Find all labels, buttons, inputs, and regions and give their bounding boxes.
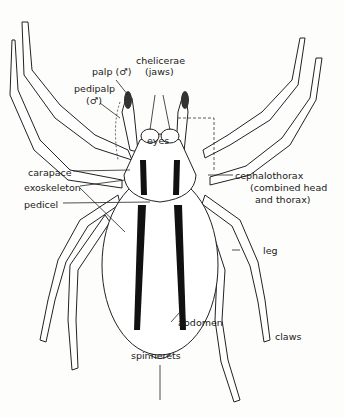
label-pedipalp-male: (♂) xyxy=(86,95,102,106)
label-spinnerets: spinnerets xyxy=(131,350,181,361)
label-pedipalp: pedipalp xyxy=(74,83,115,94)
label-chelicerae-jaws: (jaws) xyxy=(145,66,174,77)
spider-diagram: palp (♂) chelicerae (jaws) pedipalp (♂) … xyxy=(0,0,344,417)
label-abdomen: abdomen xyxy=(178,317,223,328)
label-chelicerae: chelicerae xyxy=(136,55,185,66)
label-cephalothorax-desc2: and thorax) xyxy=(255,194,311,205)
label-cephalothorax: cephalothorax xyxy=(235,170,303,181)
label-eyes: eyes xyxy=(147,135,169,146)
label-exoskeleton: exoskeleton xyxy=(24,182,81,193)
label-leg: leg xyxy=(263,245,278,256)
label-palp: palp (♂) xyxy=(92,66,131,77)
label-pedicel: pedicel xyxy=(24,199,58,210)
label-claws: claws xyxy=(275,331,301,342)
label-carapace: carapace xyxy=(28,167,72,178)
label-cephalothorax-desc1: (combined head xyxy=(250,182,327,193)
